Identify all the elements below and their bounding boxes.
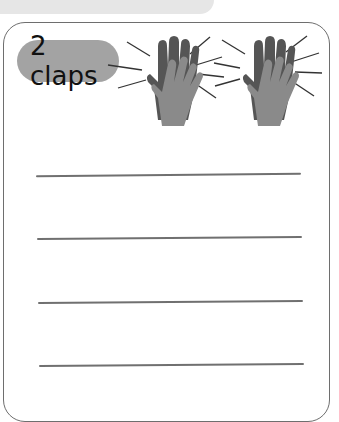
clapping-hands-icon: [243, 36, 299, 126]
clapping-hands-icon: [147, 36, 203, 126]
clap-illustration: [0, 0, 339, 130]
